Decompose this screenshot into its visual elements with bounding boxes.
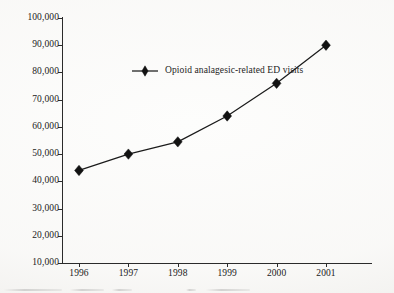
plot-area: 10,00020,00030,00040,00050,00060,00070,0… — [63, 18, 372, 263]
data-point-marker: 2000: 76,000 — [272, 78, 281, 88]
data-point-marker: 1998: 54,500 — [173, 137, 182, 147]
figure-root: 10,00020,00030,00040,00050,00060,00070,0… — [0, 0, 394, 293]
y-axis-tick-label: 100,000 — [27, 13, 59, 23]
series-line — [79, 45, 326, 170]
series-markers: 1996: 44,0001997: 50,0001998: 54,5001999… — [75, 40, 331, 176]
x-axis-tick — [277, 263, 278, 267]
y-axis-tick-label: 10,000 — [32, 258, 59, 268]
x-axis-tick-label: 1998 — [168, 269, 187, 279]
x-axis-tick — [326, 263, 327, 267]
x-axis-tick — [79, 263, 80, 267]
x-axis-tick — [227, 263, 228, 267]
y-axis-tick-label: 50,000 — [32, 149, 59, 159]
y-axis-tick-label: 40,000 — [32, 177, 59, 187]
x-axis-tick — [128, 263, 129, 267]
y-axis-tick-label: 60,000 — [32, 122, 59, 132]
x-axis-tick — [178, 263, 179, 267]
x-axis-tick-label: 1999 — [217, 269, 236, 279]
legend-label-opioid-ed-visits: Opioid analagesic-related ED visits — [165, 66, 303, 76]
y-axis-tick-label: 20,000 — [32, 231, 59, 241]
data-point-marker: 1997: 50,000 — [124, 149, 133, 159]
x-axis-tick-label: 1997 — [119, 269, 138, 279]
data-point-marker: 1999: 64,000 — [223, 111, 232, 121]
y-axis-tick-label: 90,000 — [32, 40, 59, 50]
x-axis-tick-label: 2001 — [316, 269, 335, 279]
x-axis-tick-label: 1996 — [69, 269, 88, 279]
y-axis-tick-label: 80,000 — [32, 68, 59, 78]
y-axis-tick-label: 70,000 — [32, 95, 59, 105]
series-opioid-ed-visits: 1996: 44,0001997: 50,0001998: 54,5001999… — [63, 18, 372, 263]
diamond-marker-icon — [132, 65, 158, 77]
scan-edge-artifacts — [0, 282, 394, 293]
chart-legend: Opioid analagesic-related ED visits — [132, 65, 303, 77]
y-axis-tick-label: 30,000 — [32, 204, 59, 214]
x-axis-tick-label: 2000 — [267, 269, 286, 279]
data-point-marker: 1996: 44,000 — [75, 165, 84, 175]
data-point-marker: 2001: 90,000 — [322, 40, 331, 50]
